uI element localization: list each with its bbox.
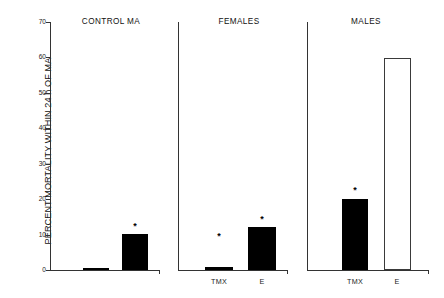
- x-tick-label-females-e: E: [242, 277, 282, 286]
- panel1-x-axis-end-tick: [159, 270, 160, 274]
- y-tick-label-70: 70: [30, 19, 46, 26]
- y-tick-mark-60: [46, 57, 50, 58]
- significance-star-females-tmx: *: [212, 232, 226, 241]
- panel2-x-axis-end-tick: [287, 270, 288, 274]
- y-tick-label-50: 50: [30, 90, 46, 97]
- y-tick-label-20: 20: [30, 196, 46, 203]
- y-tick-mark-50: [46, 93, 50, 94]
- y-tick-mark-40: [46, 128, 50, 129]
- significance-star-ma: *: [128, 222, 142, 231]
- y-tick-mark-10: [46, 235, 50, 236]
- panel3-plot-area: *: [307, 0, 442, 270]
- panel2-plot-area: * *: [178, 0, 300, 270]
- significance-star-females-e: *: [255, 215, 269, 224]
- panel1-plot-area: *: [50, 0, 172, 270]
- bar-males-tmx: [342, 199, 368, 270]
- y-axis-tick-labels: 70 60 50 40 30 20 10 0: [28, 0, 46, 298]
- bar-control: [83, 268, 109, 270]
- y-tick-label-60: 60: [30, 54, 46, 61]
- panel1-x-axis-line: [50, 270, 160, 271]
- significance-star-males-tmx: *: [348, 186, 362, 195]
- y-tick-mark-0: [46, 270, 50, 271]
- panel2-x-axis-line: [178, 270, 288, 271]
- chart-figure: PERCENT MORTALITY WITHIN 24 h OF MA 70 6…: [0, 0, 444, 298]
- panel3-x-axis-end-tick: [428, 270, 429, 274]
- panel3-x-axis-line: [307, 270, 429, 271]
- x-tick-label-females-tmx: TMX: [199, 277, 239, 286]
- panel-control-ma: CONTROL MA *: [50, 0, 172, 298]
- panel-males: MALES * TMX E: [307, 0, 442, 298]
- x-tick-label-males-e: E: [377, 277, 417, 286]
- bar-males-e: [384, 58, 411, 270]
- x-tick-label-males-tmx: TMX: [335, 277, 375, 286]
- y-tick-mark-70: [46, 22, 50, 23]
- y-tick-label-40: 40: [30, 125, 46, 132]
- bar-females-e: [248, 227, 276, 270]
- y-tick-label-30: 30: [30, 161, 46, 168]
- y-tick-mark-30: [46, 164, 50, 165]
- bar-females-tmx: [205, 267, 233, 270]
- y-tick-label-0: 0: [30, 267, 46, 274]
- bar-ma: [122, 234, 148, 270]
- panel-females: FEMALES * * TMX E: [178, 0, 300, 298]
- y-tick-label-10: 10: [30, 232, 46, 239]
- y-tick-mark-20: [46, 199, 50, 200]
